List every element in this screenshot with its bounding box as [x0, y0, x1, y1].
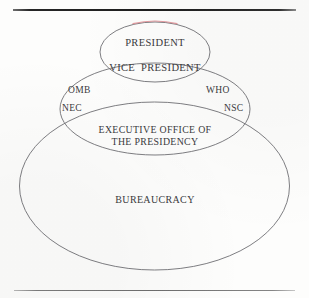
nsc-label: NSC — [224, 103, 244, 114]
bureaucracy-label: BUREAUCRACY — [115, 194, 194, 206]
executive-office-label-line2: THE PRESIDENCY — [112, 136, 199, 147]
nec-label: NEC — [62, 103, 82, 114]
omb-label: OMB — [68, 85, 91, 96]
executive-office-label-line1: EXECUTIVE OFFICE OF — [99, 124, 212, 135]
diagram-page: PRESIDENT VICE PRESIDENT OMB WHO NEC NSC… — [0, 0, 309, 298]
executive-office-label: EXECUTIVE OFFICE OFTHE PRESIDENCY — [99, 124, 212, 147]
vice-president-label: VICE PRESIDENT — [109, 62, 201, 74]
bottom-divider — [14, 290, 295, 291]
president-label: PRESIDENT — [125, 37, 185, 49]
who-label: WHO — [206, 85, 230, 96]
